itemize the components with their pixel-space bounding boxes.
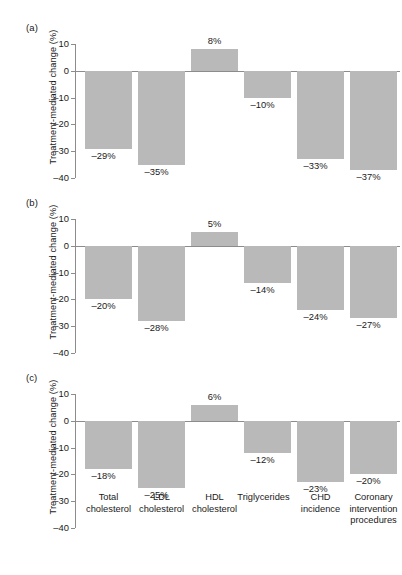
bar [85,71,132,149]
y-axis-tick [71,326,75,327]
y-axis-tick-label: 10 [29,39,69,48]
bar [191,49,238,70]
bar-value-label: 5% [191,219,238,228]
y-axis-tick-label: –20 [29,469,69,478]
y-axis-tick [71,394,75,395]
bar [297,246,344,310]
y-axis-tick-label: –40 [29,173,69,182]
bar [191,232,238,245]
y-axis-tick [71,273,75,274]
y-axis-tick-label: –10 [29,93,69,102]
bar [85,421,132,469]
plot-area-b: 100–10–20–30–40–20%–28%5%–14%–24%–27% [75,219,400,353]
y-axis-tick [71,299,75,300]
bar [297,71,344,159]
y-axis-tick [71,151,75,152]
bar [350,71,397,170]
y-axis-tick [71,474,75,475]
plot-area-a: 100–10–20–30–40–29%–35%8%–10%–33%–37% [75,44,400,178]
bar-value-label: –12% [239,455,286,464]
y-axis-tick [71,124,75,125]
y-axis-tick-label: –30 [29,496,69,505]
bar-value-label: 8% [191,36,238,45]
y-axis-tick-label: –20 [29,294,69,303]
panel-label-c: (c) [26,372,37,383]
bar-value-label: –20% [345,476,392,485]
y-axis-tick [71,98,75,99]
bar [244,71,291,98]
bar-value-label: –28% [133,323,180,332]
y-axis-tick-label: 10 [29,214,69,223]
bar [85,246,132,300]
chart-panel-a: (a) Treatment-mediated change (%) 100–10… [0,20,402,195]
bar-value-label: –24% [292,312,339,321]
y-axis-tick-label: 0 [29,66,69,75]
chart-figure: (a) Treatment-mediated change (%) 100–10… [0,0,402,575]
bar [191,405,238,421]
bar [244,246,291,284]
bar [138,71,185,165]
bar [138,421,185,488]
bar-value-label: –35% [133,167,180,176]
bar [350,246,397,318]
y-axis-tick-label: –30 [29,321,69,330]
bar-value-label: –18% [80,471,127,480]
y-axis-tick-label: –20 [29,119,69,128]
y-axis-tick-label: –10 [29,268,69,277]
category-axis-labels: Total cholesterolLDL cholesterolHDL chol… [75,492,402,552]
y-axis-line [75,44,76,178]
bar-value-label: –20% [80,301,127,310]
bar [244,421,291,453]
y-axis-tick [71,44,75,45]
y-axis-tick [71,178,75,179]
y-axis-tick [71,353,75,354]
category-label: Coronary intervention procedures [337,492,402,527]
y-axis-tick [71,448,75,449]
bar-value-label: –33% [292,161,339,170]
bar-value-label: –10% [239,100,286,109]
y-axis-tick-label: –10 [29,443,69,452]
y-axis-tick-label: –30 [29,146,69,155]
bar-value-label: 6% [191,392,238,401]
bar-value-label: –27% [345,320,392,329]
y-axis-tick-label: –40 [29,523,69,532]
panel-label-a: (a) [26,22,38,33]
bar-value-label: –14% [239,285,286,294]
bar [138,246,185,321]
y-axis-tick [71,219,75,220]
chart-panel-b: (b) Treatment-mediated change (%) 100–10… [0,195,402,370]
y-axis-tick-label: –40 [29,348,69,357]
bar-value-label: –37% [345,172,392,181]
y-axis-tick-label: 0 [29,416,69,425]
y-axis-tick-label: 10 [29,389,69,398]
bar [350,421,397,475]
y-axis-tick-label: 0 [29,241,69,250]
bar [297,421,344,483]
y-axis-line [75,219,76,353]
bar-value-label: –29% [80,151,127,160]
panel-label-b: (b) [26,197,38,208]
